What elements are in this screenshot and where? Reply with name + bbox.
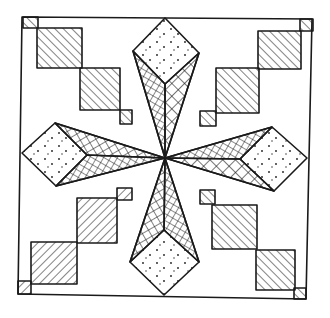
small-square (200, 111, 216, 126)
small-square (200, 190, 215, 204)
small-square (300, 19, 313, 31)
small-square (120, 110, 132, 124)
step-square (80, 68, 120, 110)
step-square (258, 31, 301, 69)
step-square (37, 28, 82, 68)
step-square (256, 250, 295, 290)
step-square (216, 68, 259, 113)
step-square (212, 205, 257, 249)
step-square (77, 198, 117, 243)
small-square (23, 17, 38, 28)
small-square (18, 281, 31, 294)
small-square (117, 188, 132, 200)
step-square (31, 242, 77, 284)
quilt-block-drawing (0, 0, 330, 318)
small-square (294, 288, 306, 299)
